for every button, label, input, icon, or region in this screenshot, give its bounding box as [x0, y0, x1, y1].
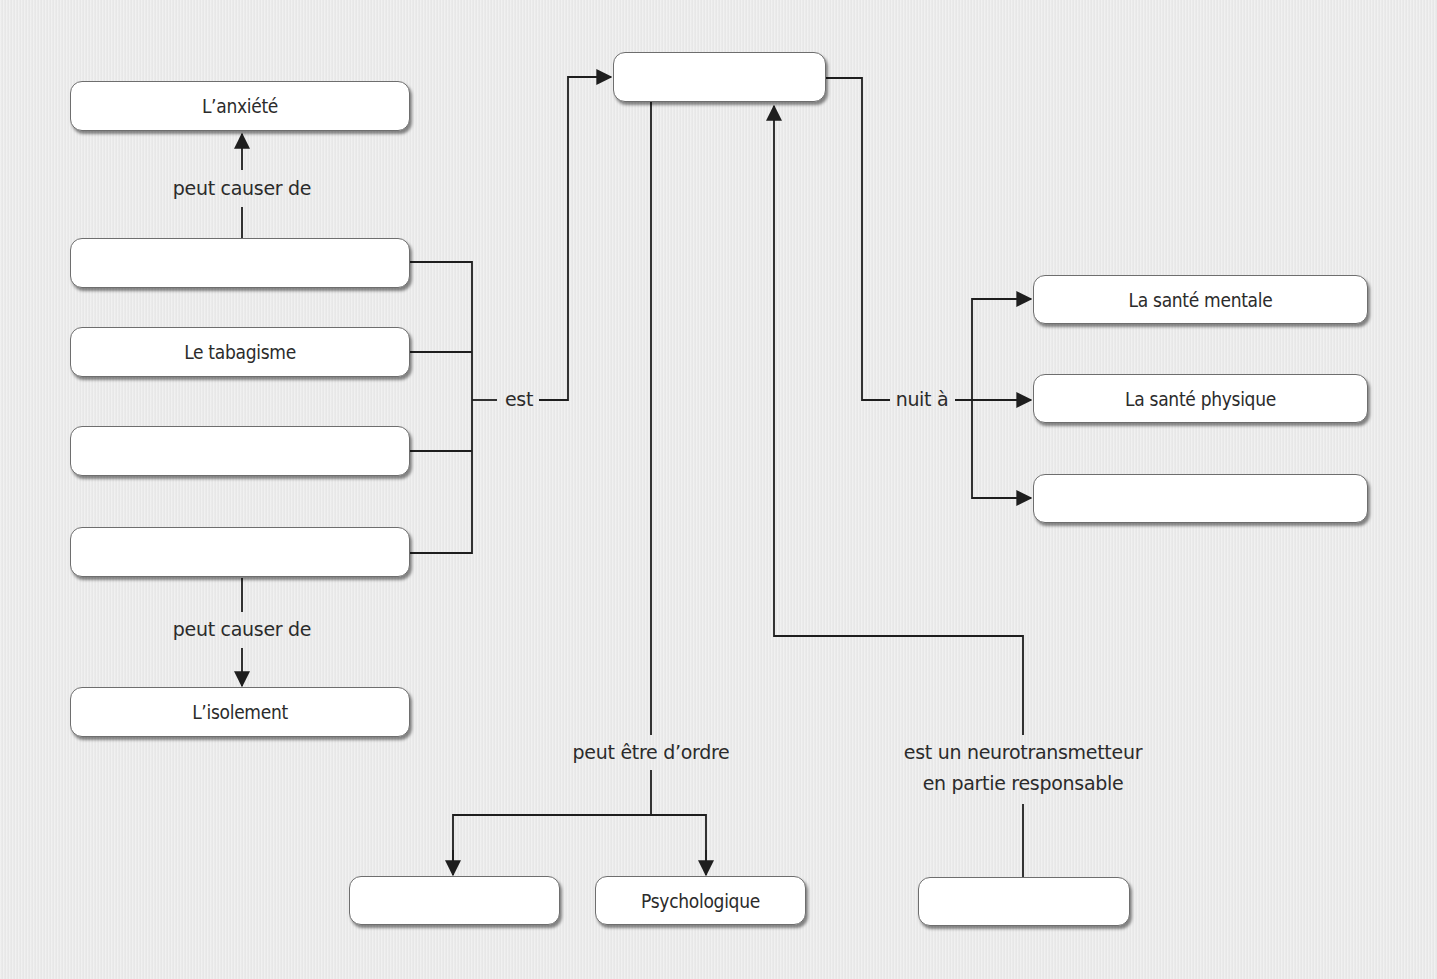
answer-input-left-4[interactable]	[71, 528, 409, 576]
box-left-item-3-blank[interactable]	[70, 426, 410, 476]
label-neuro-line1: est un neurotransmetteur	[888, 737, 1158, 768]
box-neurotransmitter-blank[interactable]	[918, 877, 1130, 926]
box-psychologique: Psychologique	[595, 876, 806, 925]
label-causes-down: peut causer de	[162, 614, 322, 645]
box-anxiety-text: L’anxiété	[202, 95, 278, 117]
label-nuit-a: nuit à	[891, 384, 953, 415]
box-sante-mentale: La santé mentale	[1033, 275, 1368, 324]
box-right-item-3-blank[interactable]	[1033, 474, 1368, 523]
box-central-blank[interactable]	[613, 52, 826, 102]
box-origin-left-blank[interactable]	[349, 876, 560, 925]
label-est: est	[499, 384, 539, 415]
branch-ordre	[453, 815, 706, 875]
answer-input-central[interactable]	[614, 53, 825, 101]
bracket-left-items	[410, 262, 472, 553]
box-left-item-1-blank[interactable]	[70, 238, 410, 288]
box-left-item-4-blank[interactable]	[70, 527, 410, 577]
label-neuro-line2: en partie responsable	[888, 768, 1158, 799]
answer-input-left-3[interactable]	[71, 427, 409, 475]
box-isolement: L’isolement	[70, 687, 410, 737]
box-sante-physique-text: La santé physique	[1125, 388, 1276, 410]
line-central-to-nuit	[826, 78, 890, 400]
box-anxiety: L’anxiété	[70, 81, 410, 131]
box-sante-mentale-text: La santé mentale	[1129, 289, 1273, 311]
answer-input-origin-left[interactable]	[350, 877, 559, 924]
label-peut-etre-ordre: peut être d’ordre	[561, 737, 741, 768]
box-psychologique-text: Psychologique	[641, 890, 760, 912]
answer-input-right-3[interactable]	[1034, 475, 1367, 522]
box-tabagisme-text: Le tabagisme	[184, 341, 296, 363]
box-sante-physique: La santé physique	[1033, 374, 1368, 423]
box-isolement-text: L’isolement	[192, 701, 288, 723]
arrow-neuro-to-central	[774, 106, 1023, 735]
answer-input-neurotransmitter[interactable]	[919, 878, 1129, 925]
bracket-right-items	[972, 299, 1031, 498]
label-causes-up: peut causer de	[162, 173, 322, 204]
arrow-est-to-central	[539, 77, 611, 400]
answer-input-left-1[interactable]	[71, 239, 409, 287]
box-tabagisme: Le tabagisme	[70, 327, 410, 377]
